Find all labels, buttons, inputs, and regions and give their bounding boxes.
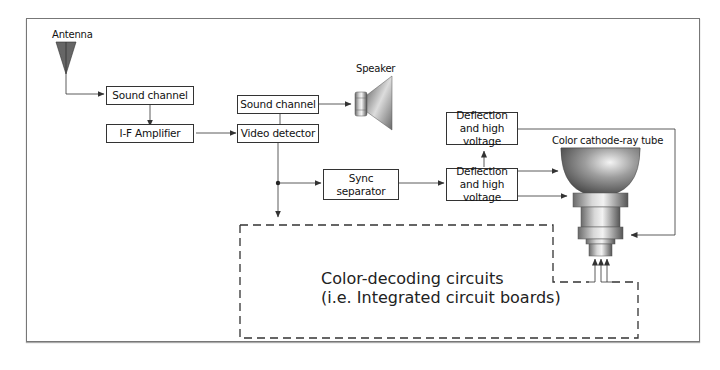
color-decoding-title: Color-decoding circuits [321, 269, 504, 288]
sync-separator-box: Sync separator [323, 169, 399, 200]
antenna-icon [56, 42, 76, 74]
if-amplifier-box: I-F Amplifier [106, 124, 194, 143]
speaker-label: Speaker [356, 63, 395, 74]
sound-channel-box: Sound channel [106, 86, 194, 105]
speaker-icon [355, 76, 392, 130]
video-detector-box: Video detector [237, 124, 319, 143]
color-decoding-subtitle: (i.e. Integrated circuit boards) [321, 288, 561, 307]
sound-channel-2-box: Sound channel [237, 95, 319, 114]
antenna-label: Antenna [52, 29, 93, 40]
crt-icon [561, 148, 640, 256]
deflection-high-voltage-top-box: Deflection and high voltage [446, 112, 518, 145]
deflection-high-voltage-bottom-box: Deflection and high voltage [446, 168, 518, 201]
crt-label: Color cathode-ray tube [552, 135, 663, 146]
